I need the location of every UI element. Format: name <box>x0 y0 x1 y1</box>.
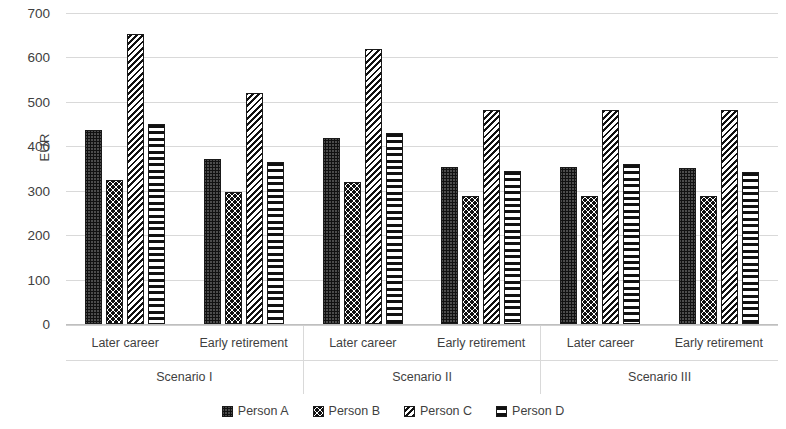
y-axis-tick-label: 400 <box>0 139 50 154</box>
bar-person-d[interactable] <box>504 171 521 324</box>
bar-chart: EUR 7006005004003002001000 Later careerE… <box>0 0 786 429</box>
axis-category-label: Later career <box>66 326 184 360</box>
plot-area: 7006005004003002001000 <box>66 13 778 324</box>
bar-person-b[interactable] <box>700 196 717 324</box>
y-axis-tick-label: 0 <box>0 317 50 332</box>
legend-swatch-icon <box>313 406 324 417</box>
axis-scenario-block: Later careerEarly retirementScenario II <box>304 326 542 394</box>
scenario-bar-group <box>541 13 778 324</box>
category-bar-cluster <box>541 13 660 324</box>
legend-label: Person C <box>420 404 472 418</box>
bar-person-d[interactable] <box>267 162 284 324</box>
bar-person-a[interactable] <box>204 159 221 324</box>
y-axis-tick-label: 700 <box>0 6 50 21</box>
bar-person-a[interactable] <box>323 138 340 324</box>
bar-person-d[interactable] <box>386 133 403 324</box>
bar-person-a[interactable] <box>85 130 102 324</box>
legend-label: Person A <box>238 404 289 418</box>
bar-person-c[interactable] <box>602 110 619 324</box>
bar-groups <box>66 13 778 324</box>
bar-person-c[interactable] <box>246 93 263 324</box>
scenario-bar-group <box>66 13 303 324</box>
axis-scenario-label: Scenario III <box>541 361 778 395</box>
scenario-bar-group <box>303 13 540 324</box>
axis-category-label: Early retirement <box>660 326 778 360</box>
axis-scenario-label: Scenario II <box>304 361 541 395</box>
chart-legend: Person APerson BPerson CPerson D <box>0 404 786 418</box>
category-bar-cluster <box>303 13 422 324</box>
y-axis-tick-label: 200 <box>0 228 50 243</box>
axis-category-label: Later career <box>541 326 659 360</box>
bar-person-c[interactable] <box>483 110 500 324</box>
bar-person-b[interactable] <box>344 182 361 324</box>
category-bar-cluster <box>422 13 541 324</box>
bar-person-c[interactable] <box>127 34 144 324</box>
bar-person-b[interactable] <box>462 196 479 324</box>
y-axis-tick-label: 300 <box>0 183 50 198</box>
category-axis: Later careerEarly retirementScenario ILa… <box>66 325 778 394</box>
legend-swatch-icon <box>404 406 415 417</box>
legend-swatch-icon <box>496 406 507 417</box>
bar-person-d[interactable] <box>742 172 759 324</box>
category-bar-cluster <box>66 13 185 324</box>
axis-scenario-block: Later careerEarly retirementScenario I <box>66 326 304 394</box>
axis-scenario-block: Later careerEarly retirementScenario III <box>541 326 778 394</box>
bar-person-c[interactable] <box>365 49 382 324</box>
axis-category-label: Later career <box>304 326 422 360</box>
y-axis-tick-label: 600 <box>0 50 50 65</box>
bar-person-a[interactable] <box>679 168 696 324</box>
legend-label: Person B <box>329 404 380 418</box>
bar-person-d[interactable] <box>148 124 165 324</box>
legend-swatch-icon <box>222 406 233 417</box>
axis-scenario-label: Scenario I <box>66 361 303 395</box>
bar-person-b[interactable] <box>225 192 242 324</box>
axis-category-label: Early retirement <box>422 326 540 360</box>
bar-person-b[interactable] <box>106 180 123 324</box>
bar-person-a[interactable] <box>560 167 577 324</box>
legend-item[interactable]: Person D <box>496 404 564 418</box>
axis-category-row: Later careerEarly retirement <box>66 326 303 361</box>
legend-item[interactable]: Person C <box>404 404 472 418</box>
legend-item[interactable]: Person B <box>313 404 380 418</box>
y-axis-tick-label: 500 <box>0 94 50 109</box>
bar-person-a[interactable] <box>441 167 458 324</box>
category-bar-cluster <box>185 13 304 324</box>
legend-label: Person D <box>512 404 564 418</box>
legend-item[interactable]: Person A <box>222 404 289 418</box>
category-bar-cluster <box>659 13 778 324</box>
axis-category-label: Early retirement <box>184 326 302 360</box>
axis-category-row: Later careerEarly retirement <box>304 326 541 361</box>
bar-person-d[interactable] <box>623 164 640 324</box>
bar-person-c[interactable] <box>721 110 738 324</box>
bar-person-b[interactable] <box>581 196 598 324</box>
axis-category-row: Later careerEarly retirement <box>541 326 778 361</box>
y-axis-tick-label: 100 <box>0 272 50 287</box>
